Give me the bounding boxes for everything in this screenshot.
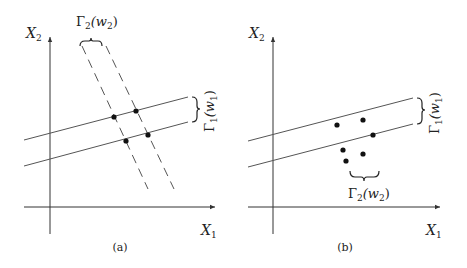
- point: [370, 132, 375, 137]
- band1-upper-line-a: [24, 97, 188, 140]
- gamma2-label-a: Γ2(w2): [76, 14, 118, 31]
- gamma1-brace-a: [192, 97, 200, 122]
- gamma2-brace-a: [80, 38, 102, 46]
- diagram-canvas: Γ2(w2) Γ1(w1) X2 X1 (a) Γ2(w2: [0, 0, 467, 268]
- caption-a: (a): [112, 241, 127, 254]
- point: [133, 108, 138, 113]
- point: [360, 117, 365, 122]
- point: [145, 132, 150, 137]
- gamma1-brace-b: [417, 98, 425, 124]
- panel-b: Γ2(w2) Γ1(w1) X2 X1 (b): [248, 25, 444, 254]
- point: [334, 122, 339, 127]
- gamma2-brace-b: [350, 171, 379, 181]
- caption-b: (b): [337, 241, 353, 254]
- panel-a: Γ2(w2) Γ1(w1) X2 X1 (a): [24, 14, 219, 254]
- band1-lower-line-a: [24, 122, 188, 166]
- gamma1-label-a: Γ1(w1): [202, 90, 219, 132]
- point: [123, 138, 128, 143]
- y-axis-label-b: X2: [248, 25, 265, 43]
- x-axis-label-b: X1: [425, 222, 442, 240]
- gamma1-label-b: Γ1(w1): [427, 92, 444, 134]
- y-axis-label-a: X2: [25, 25, 42, 43]
- point: [360, 151, 365, 156]
- point: [343, 158, 348, 163]
- x-axis-label-a: X1: [200, 222, 217, 240]
- point: [111, 114, 116, 119]
- point: [340, 147, 345, 152]
- gamma2-label-b: Γ2(w2): [348, 186, 390, 203]
